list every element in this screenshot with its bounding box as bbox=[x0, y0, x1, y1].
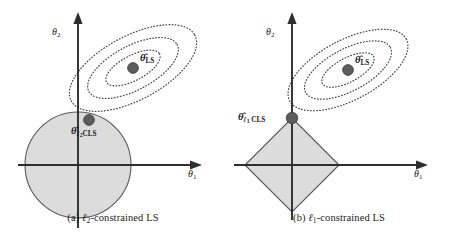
l2-cls-estimate-dot bbox=[84, 115, 95, 126]
caption-b-prefix: (b) bbox=[293, 212, 306, 223]
caption-panel-a: (a) ℓ2-constrained LS bbox=[0, 212, 226, 225]
l2-cls-label-tail: CLS bbox=[83, 130, 97, 138]
y-axis-arrowhead bbox=[287, 12, 296, 24]
caption-panel-b: (b) ℓ1-constrained LS bbox=[226, 212, 452, 225]
y-axis-label: θ2 bbox=[52, 26, 60, 39]
x-axis-label: θ1 bbox=[414, 168, 422, 181]
l1-cls-label-tail: CLS bbox=[250, 116, 266, 124]
l2-cls-estimate-label: θ̂ℓ2CLS bbox=[71, 125, 96, 138]
ls-estimate-label-sub: LS bbox=[145, 57, 154, 65]
panel-a-graphic bbox=[0, 0, 226, 246]
figure-root: θ2 θ1 θ̂LS θ̂ℓ2CLS (a) ℓ2-constrained LS bbox=[0, 0, 452, 246]
caption-a-suffix: -constrained LS bbox=[90, 212, 158, 223]
x-axis-label-sub: 1 bbox=[193, 173, 197, 181]
x-axis-label-sub: 1 bbox=[419, 173, 423, 181]
ls-estimate-dot bbox=[128, 63, 139, 74]
y-axis-label: θ2 bbox=[266, 26, 274, 39]
caption-b-suffix: -constrained LS bbox=[317, 212, 385, 223]
y-axis-label-sub: 2 bbox=[271, 31, 275, 39]
panel-l1-constrained: θ2 θ1 θ̂LS θ̂ℓ1 CLS (b) ℓ1-constrained L… bbox=[226, 0, 452, 246]
y-axis-arrowhead bbox=[73, 12, 82, 24]
y-axis-label-sub: 2 bbox=[57, 31, 61, 39]
ls-estimate-label-sub: LS bbox=[360, 59, 369, 67]
l1-cls-estimate-label: θ̂ℓ1 CLS bbox=[238, 111, 265, 124]
ls-estimate-label: θ̂LS bbox=[355, 54, 369, 67]
l1-cls-estimate-dot bbox=[286, 112, 298, 124]
caption-a-prefix: (a) bbox=[67, 212, 79, 223]
panel-l2-constrained: θ2 θ1 θ̂LS θ̂ℓ2CLS (a) ℓ2-constrained LS bbox=[0, 0, 226, 246]
ls-estimate-label: θ̂LS bbox=[140, 52, 154, 65]
ls-estimate-dot bbox=[343, 65, 354, 76]
x-axis-label: θ1 bbox=[188, 168, 196, 181]
